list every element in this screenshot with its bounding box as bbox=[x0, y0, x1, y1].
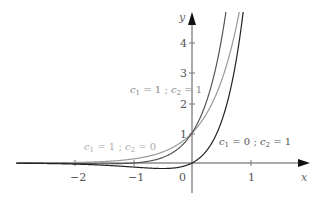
y-axis-label: y bbox=[178, 11, 186, 24]
x-tick-label: −1 bbox=[128, 171, 144, 184]
x-tick-label: −2 bbox=[70, 171, 86, 184]
annotation-c1-1-c2-0: c1 = 1 ; c2 = 0 bbox=[84, 141, 156, 154]
curve-c1-1-c2-1 bbox=[17, 0, 230, 164]
y-tick-label: 2 bbox=[180, 98, 187, 111]
annotation-c1-0-c2-1: c1 = 0 ; c2 = 1 bbox=[219, 136, 291, 149]
y-tick-label: 4 bbox=[180, 37, 187, 50]
curve-c1-1-c2-0 bbox=[17, 0, 245, 163]
chart: −2 −1 0 1 1 2 3 4 x y c1 = 1 ; c2 = 1 c1… bbox=[0, 0, 322, 203]
y-axis-arrow-icon bbox=[188, 12, 196, 25]
y-tick-label: 3 bbox=[180, 67, 187, 80]
x-axis-arrow-icon bbox=[298, 159, 310, 167]
x-tick-label: 1 bbox=[248, 171, 255, 184]
x-axis-label: x bbox=[301, 171, 308, 184]
x-tick-label: 0 bbox=[179, 171, 186, 184]
annotation-c1-1-c2-1: c1 = 1 ; c2 = 1 bbox=[130, 84, 202, 97]
